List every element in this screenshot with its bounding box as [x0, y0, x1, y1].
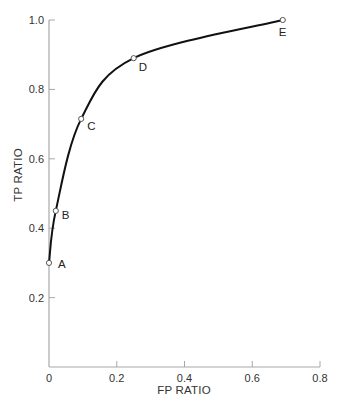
y-ticks: 0.20.40.60.81.0 — [29, 14, 55, 304]
point-marker-a — [46, 260, 51, 265]
axes — [49, 20, 320, 367]
x-tick-label: 0 — [46, 372, 52, 384]
roc-curve — [49, 20, 283, 263]
point-label-c: C — [87, 120, 95, 132]
y-tick-label: 0.2 — [29, 292, 44, 304]
y-tick-label: 0.4 — [29, 222, 44, 234]
x-tick-label: 0.6 — [245, 372, 260, 384]
x-ticks: 00.20.40.60.8 — [46, 361, 328, 384]
y-axis-title: TP RATIO — [12, 148, 24, 202]
point-label-b: B — [62, 209, 70, 221]
x-axis-title: FP RATIO — [157, 384, 211, 396]
y-tick-label: 0.6 — [29, 153, 44, 165]
roc-chart: 0.20.40.60.81.0 00.20.40.60.8 FP RATIO T… — [0, 0, 337, 405]
x-tick-label: 0.4 — [177, 372, 192, 384]
point-marker-c — [79, 116, 84, 121]
point-marker-e — [280, 17, 285, 22]
point-label-d: D — [139, 61, 147, 73]
point-label-e: E — [279, 26, 287, 38]
data-points: ABCDE — [46, 17, 286, 270]
x-tick-label: 0.2 — [109, 372, 124, 384]
point-label-a: A — [58, 258, 66, 270]
x-tick-label: 0.8 — [312, 372, 327, 384]
point-marker-d — [131, 56, 136, 61]
y-tick-label: 0.8 — [29, 83, 44, 95]
y-tick-label: 1.0 — [29, 14, 44, 26]
point-marker-b — [53, 208, 58, 213]
